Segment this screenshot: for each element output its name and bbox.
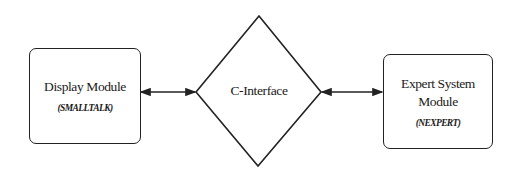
display-module-box: Display Module (SMALLTALK)	[29, 48, 141, 144]
expert-system-title-line1: Expert System	[401, 76, 475, 92]
expert-system-module-box: Expert System Module (NEXPERT)	[383, 54, 493, 149]
display-module-subtitle: (SMALLTALK)	[58, 103, 113, 113]
expert-system-title-line2: Module	[418, 94, 458, 110]
expert-system-subtitle: (NEXPERT)	[416, 118, 461, 128]
c-interface-label: C-Interface	[210, 83, 308, 99]
display-module-title: Display Module	[44, 79, 126, 95]
